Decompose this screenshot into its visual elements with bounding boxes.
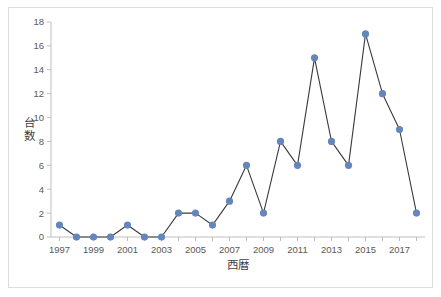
x-tick-label: 2011 — [287, 244, 307, 255]
data-point-marker — [379, 90, 386, 97]
data-point-marker — [124, 221, 131, 228]
y-tick-label: 8 — [39, 136, 44, 147]
data-point-marker — [90, 233, 97, 240]
x-tick-label: 2007 — [219, 244, 240, 255]
x-tick-label: 2003 — [151, 244, 172, 255]
data-point-marker — [56, 221, 63, 228]
y-tick-label: 2 — [39, 208, 44, 219]
y-tick-label: 10 — [33, 112, 44, 123]
y-tick-label: 12 — [33, 88, 44, 99]
data-point-marker — [328, 138, 335, 145]
x-tick-label: 2009 — [253, 244, 274, 255]
y-tick-label: 16 — [33, 40, 44, 51]
data-point-marker — [243, 162, 250, 169]
data-point-marker — [192, 210, 199, 217]
x-tick-label: 2015 — [355, 244, 376, 255]
data-point-marker — [158, 233, 165, 240]
chart-figure: 024681012141618 199719992001200320052007… — [8, 7, 433, 288]
x-axis-title: 西暦 — [227, 258, 250, 272]
y-axis-title-char: 台 — [24, 116, 35, 130]
x-tick-label: 1997 — [49, 244, 70, 255]
data-point-marker — [345, 162, 352, 169]
data-point-marker — [107, 233, 114, 240]
data-point-marker — [311, 54, 318, 61]
x-tick-label: 2017 — [389, 244, 410, 255]
line-chart-plot: 024681012141618 199719992001200320052007… — [9, 8, 432, 287]
y-tick-label: 18 — [33, 16, 44, 27]
data-point-marker — [362, 30, 369, 37]
y-axis-title-char: 数 — [24, 129, 36, 143]
x-tick-label: 2001 — [117, 244, 138, 255]
y-tick-label: 4 — [39, 184, 44, 195]
series-line — [60, 34, 417, 237]
y-tick-label: 0 — [39, 231, 44, 242]
y-axis: 024681012141618 — [33, 16, 51, 242]
x-tick-label: 1999 — [83, 244, 104, 255]
data-point-marker — [209, 221, 216, 228]
data-series — [56, 30, 420, 240]
x-tick-label: 2013 — [321, 244, 342, 255]
x-tick-label: 2005 — [185, 244, 206, 255]
data-point-marker — [413, 210, 420, 217]
data-point-marker — [396, 126, 403, 133]
data-point-marker — [73, 233, 80, 240]
y-tick-label: 6 — [39, 160, 44, 171]
data-point-marker — [175, 210, 182, 217]
data-point-marker — [277, 138, 284, 145]
data-point-marker — [226, 198, 233, 205]
data-point-marker — [294, 162, 301, 169]
y-tick-label: 14 — [33, 64, 44, 75]
data-point-marker — [141, 233, 148, 240]
data-point-marker — [260, 210, 267, 217]
x-axis: 1997199920012003200520072009201120132015… — [49, 237, 425, 255]
